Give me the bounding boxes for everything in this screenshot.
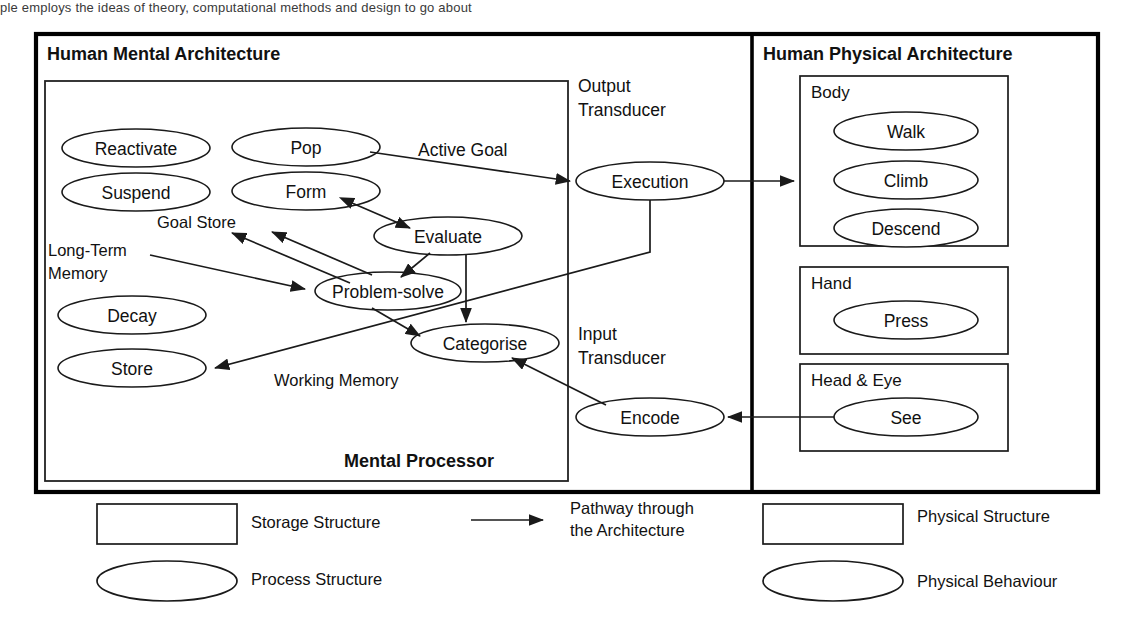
behaviour-press-label: Press — [884, 311, 929, 331]
legend-swatch-process-structure — [97, 561, 237, 601]
flow-long-term-memory-to-problem-solve — [150, 255, 305, 289]
output-transducer-label-line2: Transducer — [578, 100, 666, 120]
process-form-label: Form — [286, 182, 327, 202]
process-evaluate-label: Evaluate — [414, 227, 482, 247]
diagram-canvas: ple employs the ideas of theory, computa… — [0, 0, 1137, 635]
behaviour-walk-label: Walk — [887, 122, 925, 142]
legend-label-physical-structure: Physical Structure — [917, 507, 1050, 525]
behaviour-climb-label: Climb — [884, 171, 929, 191]
flow-problem-solve-to-goal-store-b — [272, 232, 372, 275]
legend-swatch-physical-structure — [763, 504, 903, 544]
process-categorise-label: Categorise — [443, 334, 528, 354]
region-label-long-term-memory-line2: Memory — [48, 264, 108, 282]
mental-architecture-title: Human Mental Architecture — [47, 44, 280, 64]
legend-label-storage-structure: Storage Structure — [251, 513, 380, 531]
physical-structure-hand-label: Hand — [811, 274, 852, 293]
process-store-label: Store — [111, 359, 153, 379]
process-problem-solve-label: Problem-solve — [332, 282, 444, 302]
mental-processor-label: Mental Processor — [344, 451, 494, 471]
legend-label-physical-behaviour: Physical Behaviour — [917, 572, 1058, 590]
legend-swatch-storage-structure — [97, 504, 237, 544]
flow-problem-solve-to-categorise — [372, 308, 420, 336]
input-transducer-label-line2: Transducer — [578, 348, 666, 368]
input-transducer-label-line1: Input — [578, 324, 617, 344]
legend-label-pathway-line1: Pathway through — [570, 499, 694, 517]
behaviour-see-label: See — [890, 408, 921, 428]
process-encode-label: Encode — [620, 408, 679, 428]
architecture-diagram: Human Mental Architecture Mental Process… — [0, 0, 1137, 635]
output-transducer-label-line1: Output — [578, 76, 631, 96]
legend-label-process-structure: Process Structure — [251, 570, 382, 588]
legend-swatch-physical-behaviour — [763, 561, 903, 601]
pathway-label-active-goal: Active Goal — [418, 140, 507, 160]
region-label-goal-store: Goal Store — [157, 213, 236, 231]
legend-label-pathway-line2: the Architecture — [570, 521, 685, 539]
process-decay-label: Decay — [107, 306, 157, 326]
process-pop-label: Pop — [290, 138, 321, 158]
flow-form-evaluate — [352, 203, 410, 228]
physical-structure-body-label: Body — [811, 83, 850, 102]
region-label-long-term-memory-line1: Long-Term — [48, 241, 127, 259]
physical-architecture-title: Human Physical Architecture — [763, 44, 1012, 64]
process-reactivate-label: Reactivate — [95, 139, 178, 159]
physical-structure-head-eye-label: Head & Eye — [811, 371, 902, 390]
process-suspend-label: Suspend — [101, 183, 170, 203]
process-execution-label: Execution — [612, 172, 689, 192]
behaviour-descend-label: Descend — [871, 219, 940, 239]
region-label-working-memory: Working Memory — [274, 371, 399, 389]
